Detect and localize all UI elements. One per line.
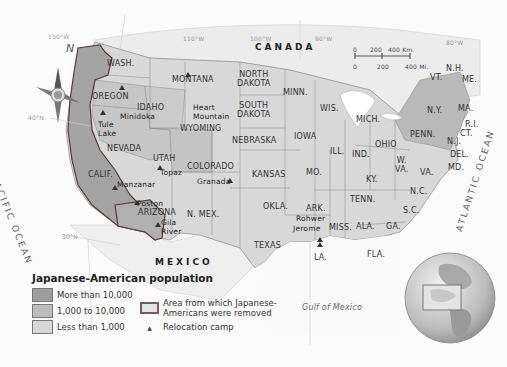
label-lat-30n: 30°N bbox=[62, 232, 78, 241]
label-camp-poston: Poston bbox=[137, 199, 163, 208]
legend-item-relocation-camp: ▲ Relocation camp bbox=[140, 322, 277, 332]
label-south-dakota: SOUTH DAKOTA bbox=[237, 101, 271, 119]
label-camp-tule-lake-line1: Tule bbox=[98, 120, 116, 129]
label-lon-90w: 90°W bbox=[315, 34, 332, 43]
label-camp-minidoka: Minidoka bbox=[120, 112, 155, 121]
scale-km-400: 400 Km. bbox=[388, 45, 414, 54]
label-wva: W. VA. bbox=[395, 156, 408, 174]
scale-mi-0: 0 bbox=[353, 62, 357, 71]
label-nevada: NEVADA bbox=[107, 144, 141, 153]
scale-mi-400: 400 Mi. bbox=[405, 62, 429, 71]
label-camp-gila-river: Gila River bbox=[161, 218, 181, 236]
label-iowa: IOWA bbox=[294, 132, 316, 141]
label-south-dakota-line2: DAKOTA bbox=[237, 110, 271, 119]
legend-swatch-dark bbox=[32, 288, 53, 302]
label-wis: WIS. bbox=[320, 104, 339, 113]
label-montana: MONTANA bbox=[172, 75, 214, 84]
label-okla: OKLA. bbox=[263, 202, 288, 211]
label-camp-heart-mountain-line1: Heart bbox=[193, 103, 230, 112]
camp-triangle-icon: ▲ bbox=[140, 324, 159, 331]
legend-label: Less than 1,000 bbox=[57, 322, 125, 332]
label-nh: N.H. bbox=[446, 64, 464, 73]
label-south-dakota-line1: SOUTH bbox=[237, 101, 271, 110]
label-ma: MA. bbox=[458, 104, 473, 113]
label-canada: CANADA bbox=[255, 43, 316, 52]
label-north-dakota-line1: NORTH bbox=[237, 70, 271, 79]
label-penn: PENN. bbox=[410, 130, 435, 139]
label-ohio: OHIO bbox=[375, 140, 397, 149]
label-md: MD. bbox=[448, 163, 464, 172]
legend-area-removed-line2: Americans were removed bbox=[163, 308, 277, 318]
label-ky: KY. bbox=[366, 175, 377, 184]
label-camp-granada: Granada bbox=[197, 177, 231, 186]
label-ark: ARK. bbox=[306, 204, 326, 213]
legend-title: Japanese-American population bbox=[32, 272, 213, 284]
compass-north-label: N bbox=[66, 44, 74, 53]
label-colorado: COLORADO bbox=[187, 162, 234, 171]
label-kansas: KANSAS bbox=[252, 170, 286, 179]
label-ind: IND. bbox=[352, 150, 370, 159]
label-lon-150w: 150°W bbox=[48, 32, 69, 41]
label-lat-40n: 40°N bbox=[28, 113, 44, 122]
legend-relocation-camp-label: Relocation camp bbox=[163, 322, 234, 332]
label-camp-heart-mountain-line2: Mountain bbox=[193, 112, 230, 121]
label-ny: N.Y. bbox=[427, 106, 442, 115]
label-lon-110w: 110°W bbox=[183, 34, 204, 43]
label-lon-80w: 80°W bbox=[446, 38, 463, 47]
scale-km-200: 200 bbox=[370, 45, 382, 54]
legend-label: More than 10,000 bbox=[57, 290, 133, 300]
label-camp-rohwer: Rohwer bbox=[296, 214, 325, 223]
label-camp-heart-mountain: Heart Mountain bbox=[193, 103, 230, 121]
label-wva-line1: W. bbox=[395, 156, 408, 165]
legend-symbols: Area from which Japanese- Americans were… bbox=[140, 298, 277, 336]
legend-label: 1,000 to 10,000 bbox=[57, 306, 125, 316]
label-fla: FLA. bbox=[367, 250, 385, 259]
label-va: VA. bbox=[420, 168, 433, 177]
label-mo: MO. bbox=[306, 168, 322, 177]
label-miss: MISS. bbox=[329, 223, 352, 232]
scale-mi-200: 200 bbox=[377, 62, 389, 71]
label-tenn: TENN. bbox=[350, 195, 375, 204]
label-camp-gila-river-line2: River bbox=[161, 227, 181, 236]
label-camp-topaz: Topaz bbox=[160, 168, 182, 177]
label-oregon: OREGON bbox=[92, 92, 129, 101]
label-ri: R.I. bbox=[465, 120, 479, 129]
label-idaho: IDAHO bbox=[137, 103, 164, 112]
label-calif: CALIF. bbox=[88, 170, 113, 179]
label-del: DEL. bbox=[450, 150, 469, 159]
legend-outline-swatch bbox=[140, 302, 159, 314]
legend-swatch-light bbox=[32, 320, 53, 334]
legend-area-removed-text: Area from which Japanese- Americans were… bbox=[163, 298, 277, 318]
label-ala: ALA. bbox=[356, 222, 375, 231]
label-gulf-of-mexico: Gulf of Mexico bbox=[302, 303, 362, 312]
label-texas: TEXAS bbox=[254, 241, 281, 250]
label-camp-tule-lake-line2: Lake bbox=[98, 129, 116, 138]
label-vt: VT. bbox=[430, 73, 443, 82]
label-north-dakota-line2: DAKOTA bbox=[237, 79, 271, 88]
legend-area-removed-line1: Area from which Japanese- bbox=[163, 298, 277, 308]
label-nebraska: NEBRASKA bbox=[232, 136, 277, 145]
label-ga: GA. bbox=[386, 222, 401, 231]
label-wva-line2: VA. bbox=[395, 165, 408, 174]
label-la: LA. bbox=[314, 253, 327, 262]
label-minn: MINN. bbox=[283, 88, 308, 97]
legend-swatch-medium bbox=[32, 304, 53, 318]
label-camp-manzanar: Manzanar bbox=[117, 180, 155, 189]
label-arizona: ARIZONA bbox=[138, 208, 176, 217]
label-lon-100w: 100°W bbox=[250, 34, 271, 43]
label-nc: N.C. bbox=[410, 187, 427, 196]
label-wash: WASH. bbox=[107, 59, 134, 68]
label-mich: MICH. bbox=[356, 115, 380, 124]
label-utah: UTAH bbox=[153, 154, 175, 163]
label-nj: N.J. bbox=[447, 137, 461, 146]
label-me: ME. bbox=[462, 75, 477, 84]
label-nmex: N. MEX. bbox=[187, 210, 219, 219]
label-camp-gila-river-line1: Gila bbox=[161, 218, 181, 227]
scale-km-0: 0 bbox=[353, 45, 357, 54]
label-camp-tule-lake: Tule Lake bbox=[98, 120, 116, 138]
label-ill: ILL. bbox=[330, 147, 345, 156]
label-camp-jerome: Jerome bbox=[293, 224, 320, 233]
label-wyoming: WYOMING bbox=[180, 124, 222, 133]
label-north-dakota: NORTH DAKOTA bbox=[237, 70, 271, 88]
label-mexico: MEXICO bbox=[155, 258, 213, 267]
